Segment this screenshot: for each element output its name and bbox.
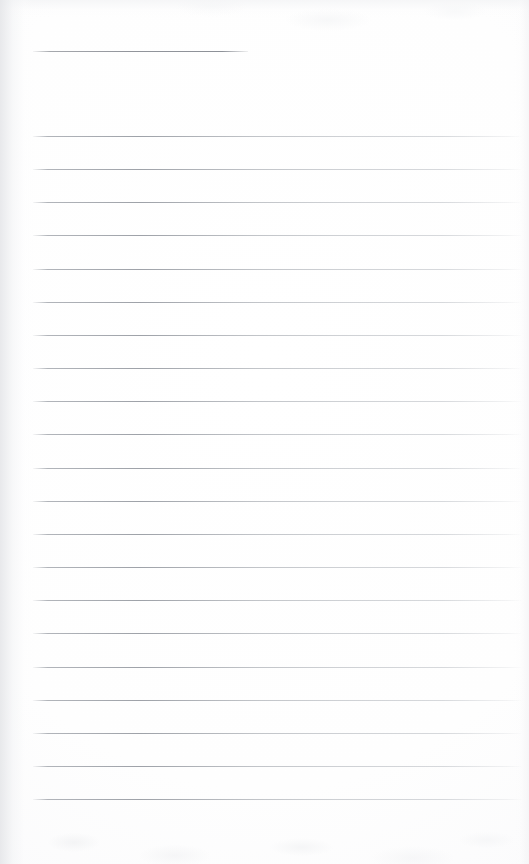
heading-rule: [33, 51, 248, 52]
writing-area[interactable]: [33, 120, 521, 820]
page-edge-shadow-top: [0, 0, 529, 18]
page-edge-shadow-left: [0, 0, 34, 864]
notebook-page: [0, 0, 529, 864]
